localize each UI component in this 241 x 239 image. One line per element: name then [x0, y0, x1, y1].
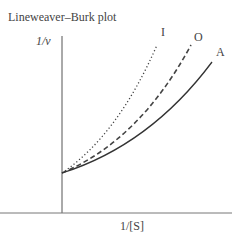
series-O-line	[62, 45, 191, 173]
y-axis-label: 1/v	[36, 34, 51, 48]
chart-title: Lineweaver–Burk plot	[8, 10, 117, 24]
series-A-label: A	[216, 45, 225, 59]
lineweaver-burk-chart: Lineweaver–Burk plot 1/v 1/[S] I O A	[0, 0, 241, 239]
series-A-line	[62, 62, 212, 173]
series-O-label: O	[194, 30, 203, 44]
series-I-label: I	[161, 25, 165, 39]
series-I-line	[62, 45, 157, 173]
x-axis-label: 1/[S]	[120, 219, 144, 233]
